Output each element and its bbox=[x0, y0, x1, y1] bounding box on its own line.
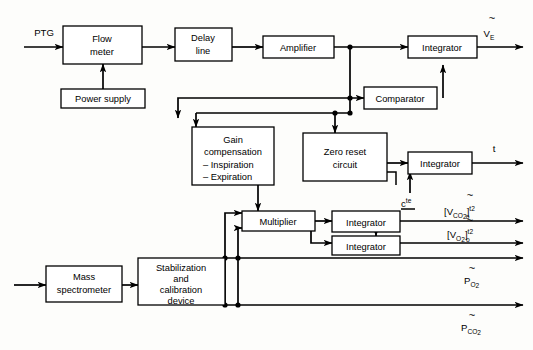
cte-sup-tspan: te bbox=[406, 197, 412, 204]
label-integrator-t: Integrator bbox=[420, 159, 460, 169]
label-amplifier: Amplifier bbox=[280, 43, 316, 53]
label-output-ve: VE bbox=[484, 28, 495, 41]
label-flow-meter-2: meter bbox=[90, 47, 114, 57]
wire-bus-to-gaincompensation bbox=[178, 98, 350, 118]
label-output-vo2: [VO2]t2o bbox=[447, 228, 473, 243]
label-zero-reset-2: circuit bbox=[333, 160, 358, 170]
block-diagram-figure: Flow meter Power supply Delay line Ampli… bbox=[0, 0, 533, 350]
label-mass-spec-1: Mass bbox=[73, 272, 96, 282]
block-zero-reset-circuit[interactable] bbox=[303, 133, 387, 181]
wire-stab-to-multiplier-a bbox=[225, 213, 242, 258]
label-stab-3: calibration bbox=[160, 285, 202, 295]
label-mass-spec-2: spectrometer bbox=[57, 285, 111, 295]
block-flow-meter[interactable] bbox=[63, 26, 142, 64]
label-comparator: Comparator bbox=[375, 94, 424, 104]
overmark-vco2: ~ bbox=[467, 189, 473, 201]
label-delay-line-2: line bbox=[196, 46, 210, 56]
label-delay-line-1: Delay bbox=[191, 33, 215, 43]
label-input-ptg: PTG bbox=[34, 27, 54, 38]
junction-dot-po2-b bbox=[235, 255, 240, 260]
overmark-ve: ~ bbox=[489, 12, 495, 24]
label-integrator-ve: Integrator bbox=[422, 43, 462, 53]
label-flow-meter-1: Flow bbox=[92, 34, 112, 44]
label-multiplier: Multiplier bbox=[259, 217, 296, 227]
label-integrator-o2: Integrator bbox=[346, 242, 386, 252]
label-gain-comp-3: – Inspiration bbox=[203, 160, 254, 170]
label-output-pco2: PCO2 bbox=[461, 322, 481, 336]
label-gain-comp-1: Gain bbox=[223, 135, 243, 145]
label-output-t: t bbox=[493, 143, 496, 154]
overmark-vo2: ~ bbox=[467, 214, 473, 226]
label-stab-2: and bbox=[173, 274, 189, 284]
diagram-canvas: Flow meter Power supply Delay line Ampli… bbox=[0, 0, 533, 350]
ve-sub-tspan: E bbox=[490, 34, 495, 41]
label-stab-1: Stabilization bbox=[156, 263, 206, 273]
label-gain-comp-4: – Expiration bbox=[203, 172, 252, 182]
label-power-supply: Power supply bbox=[75, 94, 131, 104]
wire-zeroreset-feedback bbox=[387, 172, 396, 185]
label-zero-reset-1: Zero reset bbox=[324, 147, 367, 157]
label-gain-comp-2: compensation bbox=[204, 147, 262, 157]
overmark-pco2: ~ bbox=[469, 309, 475, 321]
label-stab-4: device bbox=[168, 296, 195, 306]
label-output-po2: PO2 bbox=[464, 275, 480, 289]
junction-dot-pco2-b bbox=[235, 302, 240, 307]
label-integrator-co2: Integrator bbox=[346, 218, 386, 228]
label-constant: cte bbox=[401, 197, 412, 209]
overmark-po2: ~ bbox=[469, 262, 475, 274]
wire-stab-to-multiplier-b bbox=[238, 228, 242, 258]
wire-amplifier-to-comparator bbox=[350, 47, 364, 98]
